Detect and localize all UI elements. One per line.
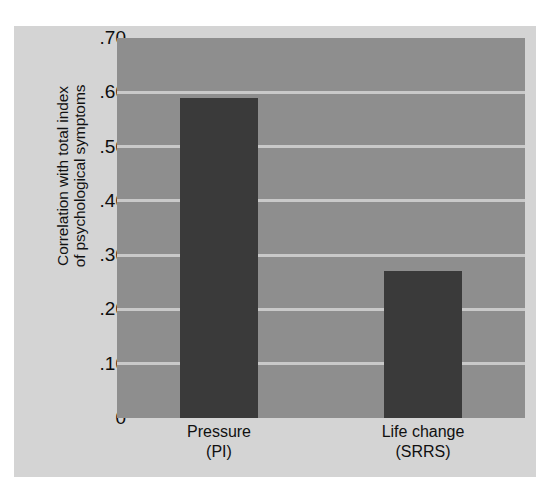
category-sublabel: (PI): [187, 442, 251, 462]
gridline: [117, 199, 525, 202]
category-name: Pressure: [187, 423, 251, 440]
plot-area: [117, 38, 525, 418]
gridline: [117, 362, 525, 365]
category-name: Life change: [382, 423, 465, 440]
category-sublabel: (SRRS): [382, 442, 465, 462]
x-axis-category-labels: Pressure(PI)Life change(SRRS): [117, 422, 525, 478]
y-axis-title-line-1: Correlation with total index: [54, 86, 71, 266]
x-axis-category-label: Pressure(PI): [187, 422, 251, 463]
bar[interactable]: [180, 98, 258, 418]
bar[interactable]: [384, 271, 462, 418]
gridline: [117, 91, 525, 94]
gridline: [117, 254, 525, 257]
figure-panel: Correlation with total index of psycholo…: [14, 26, 536, 477]
gridline: [117, 308, 525, 311]
x-axis-category-label: Life change(SRRS): [382, 422, 465, 463]
gridline: [117, 145, 525, 148]
